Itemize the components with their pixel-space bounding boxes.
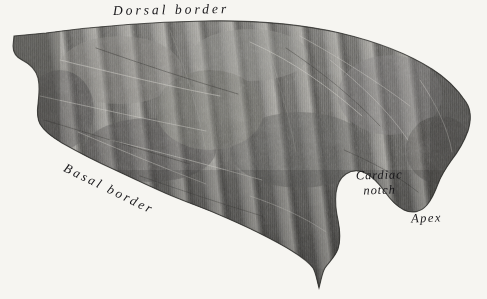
label-cardiac-notch-line1: Cardiac <box>356 167 403 182</box>
label-cardiac-notch: Cardiac notch <box>356 167 404 198</box>
lung-specimen-figure <box>0 0 487 299</box>
label-apex: Apex <box>411 210 442 226</box>
label-dorsal-border: Dorsal border <box>113 1 229 19</box>
label-cardiac-notch-line2: notch <box>356 182 403 198</box>
anatomical-plate: Dorsal border Basal border Cardiac notch… <box>0 0 487 299</box>
